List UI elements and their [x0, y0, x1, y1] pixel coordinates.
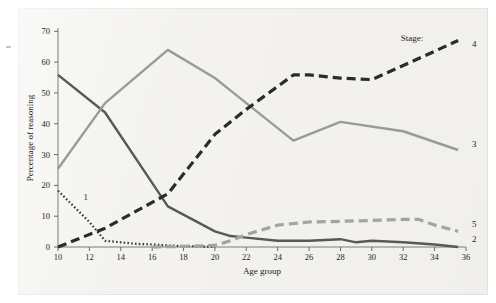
- y-tick-label: 50: [42, 88, 51, 98]
- x-axis-tick-labels: 10 12 14 16 18 20 22 24 26 28 30 32 34 3…: [54, 252, 471, 262]
- y-axis-ticks: [54, 31, 58, 247]
- x-tick-label: 12: [85, 252, 94, 262]
- x-tick-label: 18: [179, 252, 188, 262]
- x-tick-label: 34: [430, 252, 439, 262]
- x-tick-label: 30: [368, 252, 377, 262]
- series-label-layer: 12345: [84, 39, 477, 245]
- x-tick-label: 22: [242, 252, 251, 262]
- series-label-1: 1: [84, 192, 89, 202]
- legend-title: Stage:: [401, 33, 424, 43]
- y-tick-label: 40: [42, 119, 51, 129]
- y-tick-label: 30: [42, 150, 51, 160]
- x-axis-ticks: [58, 247, 466, 251]
- series-line-3: [58, 50, 458, 169]
- y-axis-tick-labels: 70 60 50 40 30 20 10 0: [42, 26, 51, 252]
- x-tick-label: 26: [305, 252, 314, 262]
- x-tick-label: 36: [462, 252, 471, 262]
- x-tick-label: 28: [336, 252, 345, 262]
- axes: [58, 28, 466, 247]
- y-tick-label: 10: [42, 211, 51, 221]
- y-tick-label: 20: [42, 180, 51, 190]
- series-line-4: [58, 41, 458, 247]
- y-tick-label: 60: [42, 57, 51, 67]
- y-axis-title: Percentage of reasoning: [25, 94, 35, 181]
- series-label-5: 5: [472, 219, 477, 229]
- x-tick-label: 20: [211, 252, 220, 262]
- series-label-4: 4: [472, 39, 477, 49]
- series-label-3: 3: [472, 139, 477, 149]
- line-chart: 70 60 50 40 30 20 10 0 10: [0, 0, 496, 303]
- y-tick-label: 0: [46, 242, 50, 252]
- series-label-2: 2: [472, 234, 477, 244]
- series-layer: [58, 41, 458, 247]
- figure-page: 70 60 50 40 30 20 10 0 10: [0, 0, 496, 303]
- x-tick-label: 10: [54, 252, 63, 262]
- x-tick-label: 32: [399, 252, 408, 262]
- x-tick-label: 16: [148, 252, 157, 262]
- x-tick-label: 24: [273, 252, 282, 262]
- x-axis-title: Age group: [243, 266, 282, 276]
- x-tick-label: 14: [117, 252, 126, 262]
- y-tick-label: 70: [42, 26, 51, 36]
